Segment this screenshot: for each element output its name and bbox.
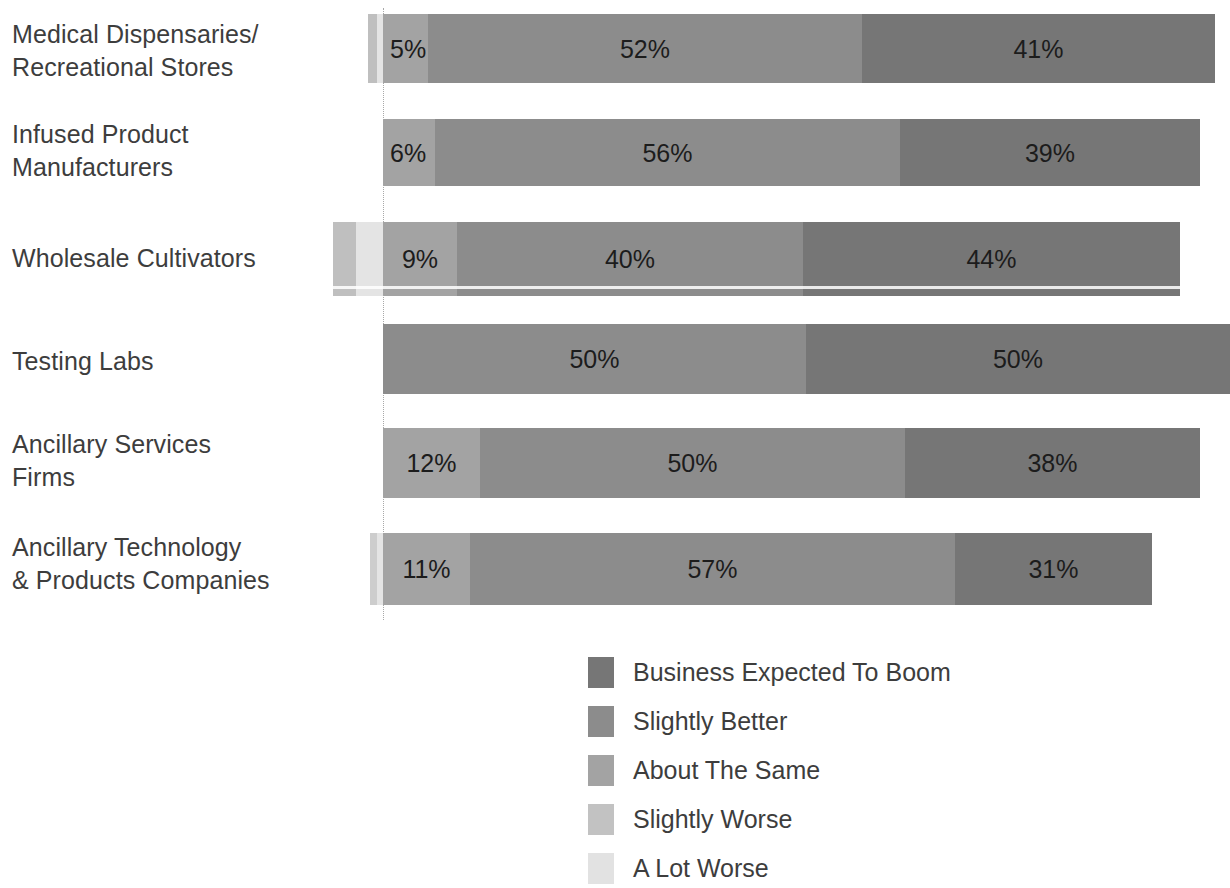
bar-value-slightly-better: 52% (428, 34, 862, 63)
bar-segment-about-the-same[interactable]: 6% (383, 119, 435, 186)
category-label-line2: Recreational Stores (12, 51, 352, 84)
legend-label: A Lot Worse (633, 856, 769, 881)
category-label-ancillary-services-firms: Ancillary Services Firms (12, 428, 352, 495)
chart-legend: Business Expected To Boom Slightly Bette… (588, 648, 1148, 888)
bar-segment-about-the-same[interactable]: 11% (383, 533, 470, 605)
category-label-line2: & Products Companies (12, 564, 352, 597)
legend-swatch-icon (588, 657, 614, 688)
bar-value-boom: 39% (900, 138, 1200, 167)
legend-swatch-icon (588, 755, 614, 786)
legend-label: Slightly Better (633, 709, 787, 734)
legend-label: Slightly Worse (633, 807, 792, 832)
category-label-line1: Wholesale Cultivators (12, 242, 352, 275)
bar-value-about-the-same: 6% (383, 138, 442, 167)
bar-segment-slightly-better[interactable]: 52% (428, 14, 862, 83)
bar-segment-boom[interactable]: 31% (955, 533, 1152, 605)
category-label-ancillary-technology-products: Ancillary Technology & Products Companie… (12, 531, 352, 598)
bar-value-about-the-same: 11% (383, 555, 470, 584)
bar-segment-about-the-same[interactable]: 5% (383, 14, 428, 83)
category-label-line1: Ancillary Services (12, 428, 352, 461)
legend-item-slightly-worse[interactable]: Slightly Worse (588, 795, 1148, 844)
plot-area: Medical Dispensaries/ Recreational Store… (0, 0, 1230, 630)
bar-segment-slightly-better[interactable]: 56% (435, 119, 900, 186)
category-label-infused-product-manufacturers: Infused Product Manufacturers (12, 118, 352, 185)
legend-item-a-lot-worse[interactable]: A Lot Worse (588, 844, 1148, 888)
legend-item-slightly-better[interactable]: Slightly Better (588, 697, 1148, 746)
legend-label: Business Expected To Boom (633, 660, 951, 685)
bar-value-boom: 31% (955, 555, 1152, 584)
bar-value-slightly-better: 50% (383, 345, 806, 374)
legend-item-business-expected-to-boom[interactable]: Business Expected To Boom (588, 648, 1148, 697)
category-label-testing-labs: Testing Labs (12, 345, 352, 378)
bar-value-boom: 38% (905, 449, 1200, 478)
category-label-line1: Medical Dispensaries/ (12, 18, 352, 51)
category-label-wholesale-cultivators: Wholesale Cultivators (12, 242, 352, 275)
bar-value-about-the-same: 9% (383, 245, 457, 274)
bar-segment-slightly-better[interactable]: 40% (457, 222, 803, 296)
bar-value-boom: 44% (803, 245, 1180, 274)
bar-segment-a-lot-worse[interactable] (356, 222, 383, 296)
bar-segment-slightly-worse[interactable] (368, 14, 377, 83)
category-label-line1: Infused Product (12, 118, 352, 151)
bar-segment-slightly-better[interactable]: 50% (383, 324, 806, 394)
bar-segment-boom[interactable]: 50% (806, 324, 1230, 394)
bar-value-about-the-same: 12% (383, 449, 480, 478)
category-label-medical-dispensaries: Medical Dispensaries/ Recreational Store… (12, 18, 352, 85)
legend-swatch-icon (588, 706, 614, 737)
bar-segment-slightly-better[interactable]: 50% (480, 428, 905, 498)
bar-value-boom: 50% (806, 345, 1230, 374)
category-label-line2: Manufacturers (12, 151, 352, 184)
bar-segment-boom[interactable]: 44% (803, 222, 1180, 296)
bar-segment-slightly-better[interactable]: 57% (470, 533, 955, 605)
bar-value-slightly-better: 57% (470, 555, 955, 584)
category-label-line1: Ancillary Technology (12, 531, 352, 564)
legend-swatch-icon (588, 853, 614, 884)
legend-label: About The Same (633, 758, 820, 783)
bar-segment-boom[interactable]: 38% (905, 428, 1200, 498)
bar-value-boom: 41% (862, 34, 1215, 63)
bar-segment-about-the-same[interactable]: 12% (383, 428, 480, 498)
category-label-line1: Testing Labs (12, 345, 352, 378)
bar-segment-boom[interactable]: 39% (900, 119, 1200, 186)
bar-segment-slightly-worse[interactable] (370, 533, 377, 605)
bar-segment-slightly-worse[interactable] (333, 222, 356, 296)
legend-swatch-icon (588, 804, 614, 835)
bar-segment-about-the-same[interactable]: 9% (383, 222, 457, 296)
category-axis-line (383, 8, 384, 620)
bar-segment-boom[interactable]: 41% (862, 14, 1215, 83)
category-label-line2: Firms (12, 461, 352, 494)
legend-item-about-the-same[interactable]: About The Same (588, 746, 1148, 795)
bar-value-slightly-better: 56% (435, 138, 900, 167)
scan-artifact-line (333, 286, 1180, 289)
bar-value-slightly-better: 40% (457, 245, 803, 274)
bar-value-slightly-better: 50% (480, 449, 905, 478)
